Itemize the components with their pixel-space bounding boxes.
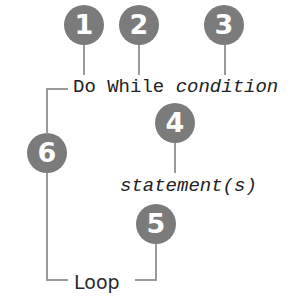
placeholder-statements: statement(s) (120, 175, 257, 197)
code-line-statements: statement(s) (120, 176, 257, 196)
callout-badge-5: 5 (136, 204, 176, 244)
connector-3 (224, 45, 226, 75)
keyword-while: While (107, 76, 164, 98)
callout-badge-3: 3 (204, 5, 244, 45)
do-while-diagram: 1 2 3 4 5 6 Do While condition statement… (0, 0, 289, 307)
bracket-upper-vertical (46, 88, 48, 134)
callout-badge-1: 1 (64, 5, 104, 45)
bracket-bottom (46, 279, 68, 281)
bracket-top (46, 88, 68, 90)
connector-2 (138, 45, 140, 75)
callout-badge-4: 4 (155, 103, 195, 143)
connector-4 (174, 143, 176, 173)
connector-1 (83, 45, 85, 75)
bracket-lower-vertical (46, 173, 48, 281)
keyword-do: Do (73, 76, 96, 98)
connector-5-vertical (155, 244, 157, 281)
connector-5-horizontal (135, 279, 157, 281)
callout-badge-2: 2 (119, 5, 159, 45)
keyword-loop: Loop (74, 271, 120, 293)
callout-badge-6: 6 (27, 133, 67, 173)
placeholder-condition: condition (176, 76, 279, 98)
code-line-do-while: Do While condition (73, 77, 278, 97)
code-line-loop: Loop (74, 272, 120, 292)
